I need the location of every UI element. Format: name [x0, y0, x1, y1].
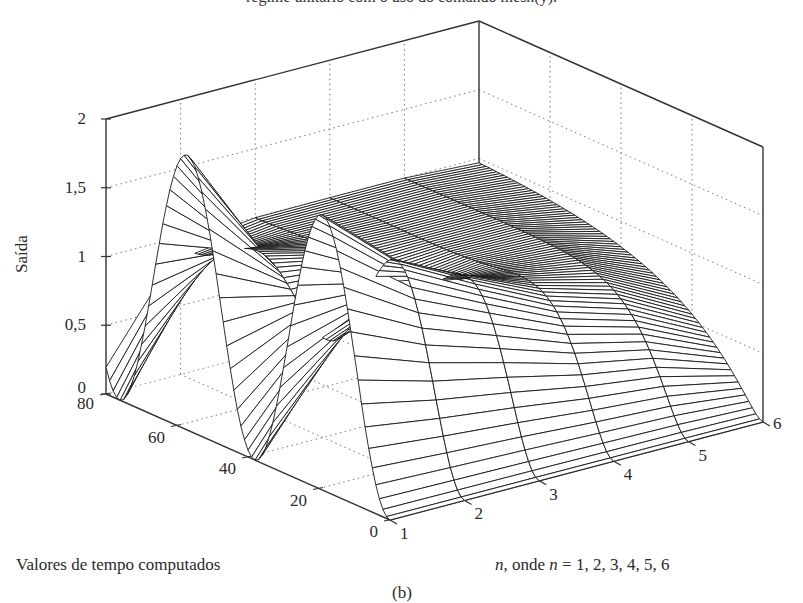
z-tick-label: 1,5	[65, 178, 86, 198]
n-tick-label: 6	[773, 414, 782, 434]
n-var-1: n	[495, 555, 504, 574]
t-tick-label: 60	[148, 428, 165, 448]
z-tick-label: 1	[78, 247, 87, 267]
n-tick-label: 4	[624, 465, 633, 485]
n-axis-label: n, onde n = 1, 2, 3, 4, 5, 6	[495, 555, 669, 575]
z-axis-label: Saída	[12, 235, 32, 273]
t-axis-label: Valores de tempo computados	[16, 555, 220, 575]
n-tick-label: 2	[475, 504, 484, 524]
t-tick-label: 80	[77, 394, 94, 414]
subfigure-label: (b)	[392, 583, 412, 603]
mesh-plot	[0, 0, 803, 603]
n-tick-label: 3	[549, 485, 558, 505]
n-label-values: = 1, 2, 3, 4, 5, 6	[558, 555, 670, 574]
z-tick-label: 0,5	[65, 315, 86, 335]
t-tick-label: 0	[370, 522, 379, 542]
n-label-mid: , onde	[504, 555, 550, 574]
surface-mesh	[106, 155, 763, 520]
n-tick-label: 1	[400, 524, 409, 544]
n-tick-label: 5	[698, 446, 707, 466]
n-var-2: n	[549, 555, 558, 574]
t-tick-label: 40	[219, 459, 236, 479]
t-tick-label: 20	[290, 491, 307, 511]
z-tick-label: 2	[78, 109, 87, 129]
